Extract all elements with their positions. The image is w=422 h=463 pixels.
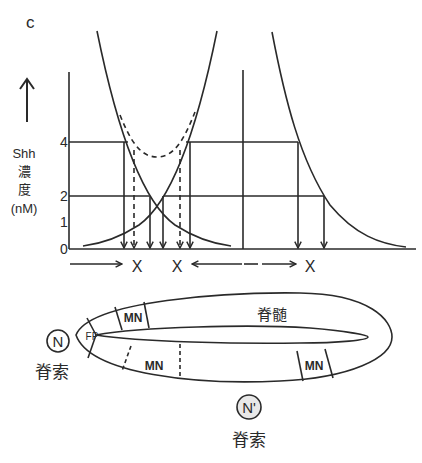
region-mn-dorsal: MN xyxy=(124,311,143,325)
notochord-left-symbol: N xyxy=(53,333,64,350)
x-marker-1: X xyxy=(132,258,143,275)
plot-lines xyxy=(69,31,416,264)
x-marker-3: X xyxy=(305,258,316,275)
y-axis-label-shh: Shh xyxy=(12,146,35,161)
notochord-bottom-label: 脊索 xyxy=(232,430,266,450)
y-axis-label-concentration-1: 濃 xyxy=(18,164,31,179)
panel-label: c xyxy=(26,13,35,32)
tick-1: 1 xyxy=(60,214,68,230)
region-mn-right: MN xyxy=(305,359,324,373)
curve-ventral-source xyxy=(272,32,406,247)
spinal-cord-label: 脊髄 xyxy=(257,306,287,324)
notochord-bottom-symbol: N' xyxy=(242,399,256,416)
up-arrow-icon xyxy=(20,79,34,122)
curve-left-source xyxy=(97,31,231,246)
region-fp: FP xyxy=(86,331,99,342)
region-mn-ventral: MN xyxy=(145,359,164,373)
x-marker-2: X xyxy=(172,258,183,275)
y-axis-label-concentration-2: 度 xyxy=(18,182,31,197)
notochord-left-label: 脊索 xyxy=(35,362,69,382)
y-axis-label-unit: (nM) xyxy=(11,201,38,216)
shh-gradient-diagram: c Shh 濃 度 (nM) 0 1 2 4 xyxy=(0,0,422,463)
curve-combined xyxy=(120,112,195,157)
spinal-cord xyxy=(76,293,392,382)
tick-0: 0 xyxy=(60,241,68,257)
tick-2: 2 xyxy=(60,188,68,204)
tick-4: 4 xyxy=(60,134,68,150)
